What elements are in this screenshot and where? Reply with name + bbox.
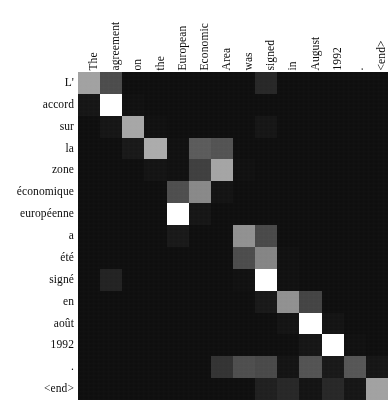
heatmap-cell: [78, 291, 100, 313]
heatmap-cell: [277, 138, 299, 160]
heatmap-cell: [167, 247, 189, 269]
heatmap-cell: [299, 116, 321, 138]
heatmap-cell: [211, 269, 233, 291]
heatmap-cell: [233, 72, 255, 94]
heatmap-cell: [299, 203, 321, 225]
heatmap-cell: [233, 291, 255, 313]
heatmap-cell: [322, 138, 344, 160]
heatmap-cell: [255, 203, 277, 225]
heatmap-cell: [255, 181, 277, 203]
heatmap-cell: [211, 181, 233, 203]
heatmap-cell: [100, 334, 122, 356]
column-label-9: in: [287, 48, 299, 70]
heatmap-cell: [189, 269, 211, 291]
heatmap-cell: [366, 334, 388, 356]
heatmap-cell: [366, 116, 388, 138]
row-label-5: économique: [17, 181, 74, 203]
heatmap-cell: [189, 72, 211, 94]
heatmap-cell: [255, 94, 277, 116]
heatmap-cell: [344, 94, 366, 116]
heatmap-cell: [122, 116, 144, 138]
heatmap-cell: [100, 72, 122, 94]
heatmap-cell: [100, 313, 122, 335]
column-label-4: European: [176, 48, 188, 70]
heatmap-cell: [255, 334, 277, 356]
heatmap-cell: [100, 94, 122, 116]
heatmap-cell: [211, 313, 233, 335]
heatmap-cell: [144, 291, 166, 313]
heatmap-cell: [255, 269, 277, 291]
heatmap-cell: [100, 356, 122, 378]
heatmap-cell: [322, 291, 344, 313]
heatmap-cell: [299, 269, 321, 291]
heatmap-cell: [277, 356, 299, 378]
heatmap-cell: [100, 181, 122, 203]
heatmap-cell: [322, 159, 344, 181]
row-label-14: <end>: [44, 378, 74, 400]
heatmap-cell: [322, 94, 344, 116]
heatmap-cell: [144, 225, 166, 247]
heatmap-cell: [322, 356, 344, 378]
heatmap-cell: [233, 356, 255, 378]
row-label-6: européenne: [20, 203, 74, 225]
heatmap-cell: [322, 181, 344, 203]
heatmap-cell: [366, 356, 388, 378]
column-label-5: Economic: [198, 48, 210, 70]
heatmap-cell: [167, 159, 189, 181]
row-label-11: août: [54, 313, 74, 335]
heatmap-cell: [344, 138, 366, 160]
heatmap-cell: [277, 94, 299, 116]
heatmap-cell: [100, 269, 122, 291]
heatmap-cell: [122, 94, 144, 116]
heatmap-cell: [167, 116, 189, 138]
heatmap-cell: [255, 378, 277, 400]
heatmap-cell: [322, 203, 344, 225]
heatmap-cell: [277, 291, 299, 313]
heatmap-cell: [366, 313, 388, 335]
heatmap-cell: [211, 203, 233, 225]
heatmap-cell: [167, 356, 189, 378]
heatmap-cell: [299, 247, 321, 269]
heatmap-cell: [167, 291, 189, 313]
heatmap-cell: [122, 203, 144, 225]
heatmap-cell: [322, 247, 344, 269]
row-label-7: a: [69, 225, 74, 247]
heatmap-cell: [366, 72, 388, 94]
heatmap-cell: [122, 313, 144, 335]
heatmap-cell: [167, 138, 189, 160]
heatmap-cell: [144, 356, 166, 378]
heatmap-cell: [100, 225, 122, 247]
heatmap-cell: [100, 247, 122, 269]
heatmap-cell: [144, 138, 166, 160]
heatmap-cell: [299, 291, 321, 313]
heatmap-cell: [78, 313, 100, 335]
heatmap-cell: [344, 116, 366, 138]
heatmap-cell: [277, 378, 299, 400]
heatmap-cell: [277, 72, 299, 94]
heatmap-cell: [122, 138, 144, 160]
heatmap-cell: [233, 378, 255, 400]
heatmap-cell: [299, 378, 321, 400]
heatmap-cell: [277, 116, 299, 138]
heatmap-cell: [189, 356, 211, 378]
heatmap-cell: [167, 94, 189, 116]
heatmap-cell: [122, 269, 144, 291]
column-label-12: .: [353, 48, 365, 70]
heatmap-cell: [167, 378, 189, 400]
row-label-8: été: [60, 247, 74, 269]
heatmap-cell: [167, 181, 189, 203]
heatmap-cell: [189, 181, 211, 203]
heatmap-cell: [344, 203, 366, 225]
heatmap-cell: [255, 225, 277, 247]
heatmap-cell: [100, 116, 122, 138]
heatmap-cell: [211, 247, 233, 269]
heatmap-cell: [233, 247, 255, 269]
heatmap-cell: [189, 138, 211, 160]
heatmap-cell: [167, 203, 189, 225]
heatmap-cell: [233, 181, 255, 203]
heatmap-cell: [78, 116, 100, 138]
heatmap-cell: [189, 247, 211, 269]
heatmap-cell: [322, 334, 344, 356]
heatmap-cell: [144, 116, 166, 138]
heatmap-cell: [344, 356, 366, 378]
